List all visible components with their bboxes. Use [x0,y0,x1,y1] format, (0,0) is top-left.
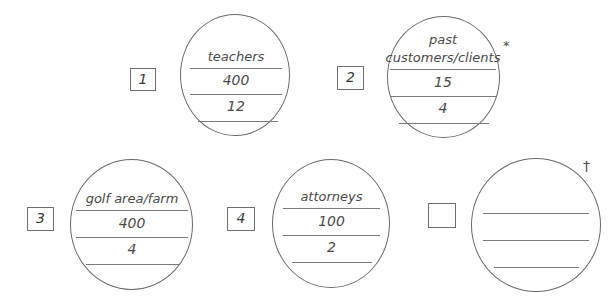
circle-3-line-2: 400 [76,216,188,235]
circle-5-rule-3 [494,267,579,268]
circle-5-rule-1 [483,213,589,214]
circle-4-rule-1 [283,208,380,209]
circle-4-rule-3 [292,262,372,263]
circle-5-line-3 [483,245,589,264]
circle-4-line-2: 100 [283,214,380,233]
circle-5-rule-2 [483,240,589,241]
number-box-3-label: 3 [36,211,45,225]
circle-1-line-2: 400 [190,73,282,92]
circle-2-footnote-mark: * [503,39,510,52]
number-box-4-label: 4 [237,211,246,225]
circle-1-rule-1 [190,68,282,69]
number-box-1[interactable]: 1 [130,68,156,91]
circle-1-rule-3 [198,121,278,122]
circle-5-line-2 [483,219,589,238]
circle-2-line-3: 15 [383,75,503,94]
circle-1-entry: teachers 400 12 [190,50,282,118]
circle-2-line-2: customers/clients [383,51,503,68]
circle-5-entry [483,195,589,264]
circle-2-line-4: 4 [383,101,503,120]
circle-3-entry: golf area/farm 400 4 [76,192,188,261]
circle-2-entry: past customers/clients 15 4 [383,33,503,120]
number-box-2[interactable]: 2 [337,66,364,90]
circle-1-line-3: 12 [190,99,282,118]
circle-4-rule-2 [283,235,380,236]
number-box-1-label: 1 [139,72,148,86]
number-box-4[interactable]: 4 [227,207,255,231]
circle-3-rule-1 [76,210,188,211]
number-box-3[interactable]: 3 [27,207,54,231]
circle-5-footnote-mark: † [583,159,590,173]
worksheet-canvas: 1 teachers 400 12 2 * past customers/cli… [0,0,609,296]
circle-4-entry: attorneys 100 2 [283,190,380,259]
circle-2-line-1: past [383,33,503,50]
circle-2-rule-1 [390,69,496,70]
circle-1-line-1: teachers [190,50,282,67]
circle-3-rule-3 [86,264,179,265]
circle-5-line-1 [483,195,589,212]
circle-1-rule-2 [190,94,282,95]
circle-4-line-3: 2 [283,240,380,259]
number-box-5-blank[interactable] [428,203,456,228]
circle-3-line-1: golf area/farm [76,192,188,209]
circle-2-rule-2 [390,96,496,97]
circle-2-rule-3 [399,123,489,124]
circle-4-line-1: attorneys [283,190,380,207]
circle-3-rule-2 [76,237,188,238]
number-box-2-label: 2 [346,70,355,84]
circle-3-line-3: 4 [76,242,188,261]
